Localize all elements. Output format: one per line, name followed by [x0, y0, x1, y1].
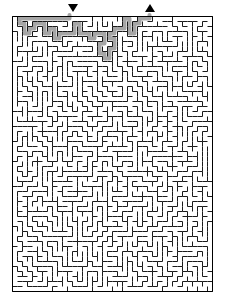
maze-puzzle-container: Maze Puzzle Rectangular perfect maze wit… — [0, 0, 227, 301]
maze-grid-canvas — [0, 0, 227, 301]
